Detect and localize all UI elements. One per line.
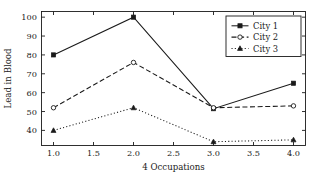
y-tick-label: 90 — [27, 31, 37, 41]
series-line-2 — [54, 62, 294, 107]
x-tick-label: 2.0 — [127, 148, 140, 158]
y-tick-label: 80 — [27, 50, 37, 60]
x-tick-label: 2.5 — [167, 148, 180, 158]
y-tick-label: 50 — [27, 107, 37, 117]
line-chart: 1.01.52.02.53.03.54.04050607080901004 Oc… — [0, 0, 312, 184]
y-axis-title: Lead in Blood — [3, 48, 13, 109]
y-tick-label: 40 — [27, 125, 37, 135]
series-marker-2 — [291, 104, 295, 108]
series-marker-3 — [51, 128, 56, 133]
series-marker-2 — [51, 106, 55, 110]
x-tick-label: 1.0 — [47, 148, 60, 158]
series-marker-3 — [131, 105, 136, 110]
x-tick-label: 4.0 — [287, 148, 300, 158]
series-marker-2 — [131, 60, 135, 64]
series-marker-1 — [291, 81, 295, 85]
legend-label-2[interactable]: City 2 — [253, 32, 278, 42]
chart-figure: 1.01.52.02.53.03.54.04050607080901004 Oc… — [0, 0, 312, 184]
legend-marker-2 — [238, 35, 242, 39]
series-marker-2 — [211, 106, 215, 110]
x-axis-title: 4 Occupations — [142, 162, 204, 172]
legend-marker-1 — [238, 24, 242, 28]
y-tick-label: 100 — [21, 12, 37, 22]
series-marker-1 — [131, 15, 135, 19]
series-marker-1 — [51, 53, 55, 57]
x-tick-label: 3.0 — [207, 148, 220, 158]
series-line-3 — [54, 108, 294, 142]
x-tick-label: 3.5 — [247, 148, 260, 158]
legend-label-1[interactable]: City 1 — [253, 21, 278, 31]
y-tick-label: 70 — [27, 69, 37, 79]
legend-label-3[interactable]: City 3 — [253, 44, 278, 54]
x-tick-label: 1.5 — [87, 148, 100, 158]
y-tick-label: 60 — [27, 88, 37, 98]
